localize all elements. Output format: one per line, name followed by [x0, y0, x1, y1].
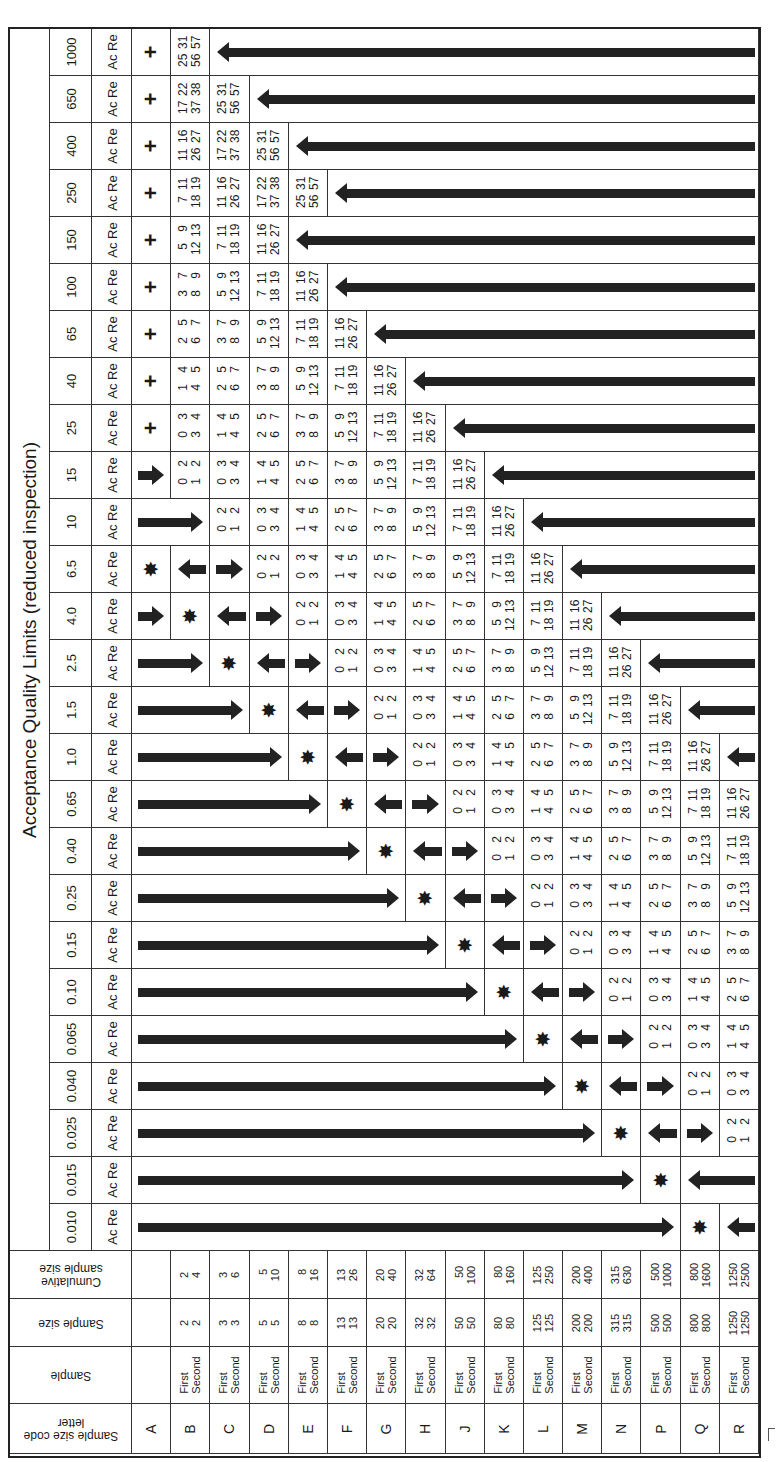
plus-icon: + [138, 422, 164, 435]
re-value: 19 [661, 742, 674, 754]
plan-cell-plan: 25315657 [210, 76, 249, 123]
ac-re-values: 1445 [216, 413, 242, 443]
ac-value: 18 [386, 431, 399, 443]
arrow-left-icon [581, 1035, 598, 1044]
header-label-cumulative: Cumulative sample size [10, 1251, 132, 1299]
ac-value: 1 [190, 478, 203, 490]
ac-value: 5 [256, 337, 269, 349]
sample_size-value: 80 [504, 1316, 516, 1328]
aql-value: 4.0 [63, 607, 78, 625]
arrow-right-icon [138, 518, 192, 527]
acre-label-cell: Ac Re [92, 499, 132, 546]
ac-re-label: Ac Re [104, 786, 119, 821]
code-letter: N [615, 1423, 628, 1433]
ac-re-values: 11162627 [177, 131, 203, 161]
header-code_letter-Q: Q [681, 1404, 720, 1454]
re-value: 4 [621, 930, 634, 942]
plus-icon: + [138, 93, 164, 106]
ac-value: 12 [504, 619, 517, 631]
ac-value: 12 [700, 854, 713, 866]
ac-re-label: Ac Re [104, 598, 119, 633]
cumulative-values: 12502500 [727, 1262, 751, 1286]
star-icon: ✸ [217, 655, 241, 672]
ac-re-values: 25315657 [256, 131, 282, 161]
ac-re-values: 1445 [726, 1024, 752, 1054]
plan-cell-right [132, 1204, 681, 1251]
star-icon: ✸ [609, 1125, 633, 1142]
aql-value: 25 [63, 421, 78, 435]
plan-cell-left [563, 1016, 602, 1063]
re-value: 27 [269, 225, 282, 237]
plan-cell-plan: 1445 [641, 922, 680, 969]
ac-value: 0 [295, 572, 308, 584]
ac-re-label: Ac Re [104, 269, 119, 304]
arrow-right-icon [569, 988, 584, 997]
plan-cell-plan: 3789 [524, 687, 563, 734]
aql-value-cell: 0.10 [50, 969, 92, 1016]
re-value: 7 [452, 601, 465, 613]
plan-cell-right [132, 781, 328, 828]
ac-re-values: 3789 [295, 413, 321, 443]
ac-value: 0 [726, 1089, 739, 1101]
ac-value: 56 [190, 55, 203, 67]
aql-value-cell: 650 [50, 76, 92, 123]
ac-re-values: 3789 [256, 366, 282, 396]
ac-re-values: 0334 [412, 695, 438, 725]
header-sample-K: FirstSecond [485, 1347, 524, 1404]
plan-cell-left [406, 358, 759, 405]
header-cumulative-E: 816 [289, 1251, 328, 1299]
ac-value: 4 [425, 666, 438, 678]
aql-value-cell: 1.0 [50, 734, 92, 781]
header-label: Sample [21, 1369, 121, 1382]
re-value: 7 [386, 554, 399, 566]
sample_size-value: 8 [308, 1319, 320, 1325]
re-value: 4 [425, 695, 438, 707]
ac-value: 6 [582, 807, 595, 819]
plan-cell-right [681, 1110, 720, 1157]
plan-cell-plan: 11162627 [602, 640, 641, 687]
ac-value: 37 [269, 196, 282, 208]
ac-value: 26 [190, 149, 203, 161]
arrow-right-icon [491, 894, 506, 903]
sample-value: Second [190, 1356, 202, 1393]
ac-value: 5 [648, 807, 661, 819]
re-value: 9 [504, 648, 517, 660]
ac-value: 18 [543, 619, 556, 631]
re-value: 3 [687, 1024, 700, 1036]
code-letter: H [419, 1423, 432, 1433]
plan-cell-left [210, 29, 759, 76]
star-icon: ✸ [649, 1172, 673, 1189]
acre-label-cell: Ac Re [92, 828, 132, 875]
code-letter: M [576, 1423, 589, 1435]
header-sample-N: FirstSecond [602, 1347, 641, 1404]
ac-value: 12 [582, 713, 595, 725]
arrow-left-icon [738, 1223, 755, 1232]
plan-cell-plan: 7111819 [367, 405, 406, 452]
arrow-right-icon [373, 753, 388, 762]
plan-cell-plan: 0212 [328, 640, 367, 687]
plan-cell-plan: 0212 [563, 922, 602, 969]
plan-cell-plan: 0212 [485, 828, 524, 875]
ac-re-values: 0212 [687, 1071, 713, 1101]
ac-value: 26 [621, 666, 634, 678]
ac-value: 26 [269, 243, 282, 255]
sample_size-value: 2 [178, 1319, 190, 1325]
re-value: 5 [295, 460, 308, 472]
cumulative-value: 100 [465, 1265, 477, 1283]
plan-cell-left [289, 123, 759, 170]
re-value: 9 [582, 742, 595, 754]
re-value: 3 [491, 789, 504, 801]
ac-value: 3 [465, 760, 478, 772]
header-sample_size-D: 55 [250, 1299, 289, 1347]
header-cumulative-L: 125250 [524, 1251, 563, 1299]
ac-value: 18 [269, 290, 282, 302]
ac-value: 11 [295, 290, 308, 302]
sample-values: FirstSecond [609, 1356, 633, 1393]
ac-re-values: 0334 [726, 1071, 752, 1101]
ac-value: 8 [308, 431, 321, 443]
arrow-right-icon [138, 1035, 506, 1044]
header-sample_size-N: 315315 [602, 1299, 641, 1347]
ac-value: 18 [700, 807, 713, 819]
ac-re-values: 0334 [569, 883, 595, 913]
header-sample-D: FirstSecond [250, 1347, 289, 1404]
